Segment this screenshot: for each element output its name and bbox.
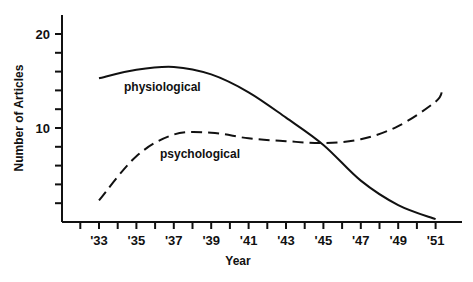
x-tick-label: '37	[165, 233, 183, 248]
x-tick-label: '49	[389, 233, 407, 248]
x-tick-labels: '33'35'37'39'41'43'45'47'49'51	[90, 233, 444, 248]
line-chart: 20 10 '33'35'37'39'41'43'45'47'49'51 Yea…	[0, 0, 473, 282]
y-tick-label-20: 20	[36, 27, 50, 42]
x-tick-label: '41	[240, 233, 258, 248]
x-tick-label: '35	[128, 233, 146, 248]
x-axis-title: Year	[225, 254, 251, 268]
x-tick-label: '39	[202, 233, 220, 248]
x-tick-label: '47	[352, 233, 370, 248]
y-axis-title: Number of Articles	[12, 64, 26, 171]
x-tick-label: '51	[427, 233, 445, 248]
physiological-label: physiological	[124, 80, 201, 94]
psychological-label: psychological	[160, 147, 240, 161]
x-axis-ticks	[80, 222, 435, 229]
x-tick-label: '33	[90, 233, 108, 248]
x-tick-label: '43	[277, 233, 295, 248]
y-tick-label-10: 10	[36, 121, 50, 136]
y-axis-ticks	[55, 34, 62, 203]
x-tick-label: '45	[315, 233, 333, 248]
